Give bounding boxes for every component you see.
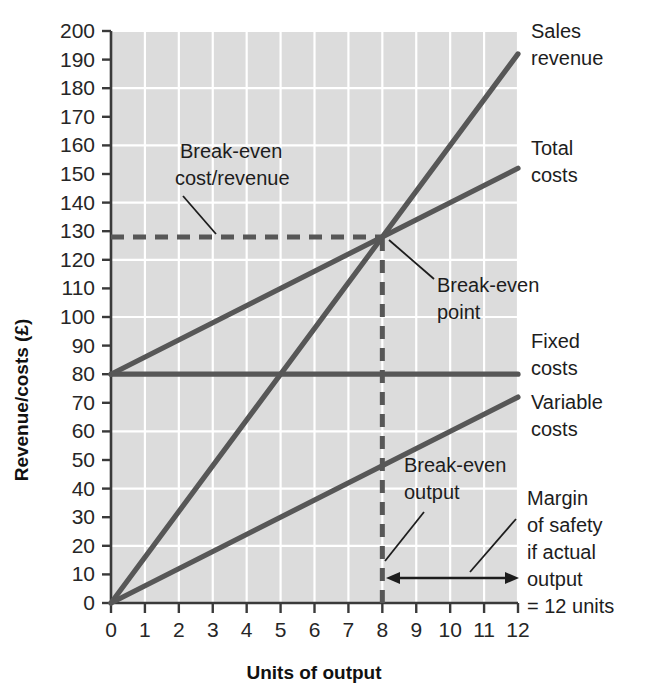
x-tick-label: 12 — [506, 618, 529, 641]
y-tick-label: 200 — [60, 19, 95, 42]
x-tick-label: 8 — [376, 618, 388, 641]
series-label-variable-costs: Variable costs — [531, 391, 603, 440]
x-tick-label: 10 — [438, 618, 461, 641]
svg-text:= 12 units: = 12 units — [527, 595, 614, 617]
y-tick-label: 160 — [60, 133, 95, 156]
svg-text:revenue: revenue — [531, 47, 603, 69]
svg-text:Margin: Margin — [527, 487, 588, 509]
x-axis-ticks — [111, 603, 518, 613]
x-tick-label: 4 — [241, 618, 253, 641]
x-axis-tick-labels: 0123456789101112 — [105, 618, 530, 641]
y-tick-label: 50 — [72, 448, 95, 471]
y-tick-label: 0 — [83, 591, 95, 614]
svg-text:Total: Total — [531, 137, 573, 159]
y-axis-ticks — [102, 31, 111, 603]
x-tick-label: 5 — [275, 618, 287, 641]
series-label-sales-revenue: Sales revenue — [531, 20, 603, 69]
x-axis-title: Units of output — [246, 662, 382, 683]
x-tick-label: 7 — [343, 618, 355, 641]
svg-text:costs: costs — [531, 418, 578, 440]
y-tick-label: 20 — [72, 534, 95, 557]
y-tick-label: 140 — [60, 191, 95, 214]
svg-text:cost/revenue: cost/revenue — [175, 167, 290, 189]
svg-text:Variable: Variable — [531, 391, 603, 413]
series-label-total-costs: Total costs — [531, 137, 578, 186]
svg-text:costs: costs — [531, 164, 578, 186]
chart-canvas: 0102030405060708090100110120130140150160… — [0, 0, 652, 692]
x-tick-label: 1 — [139, 618, 151, 641]
svg-text:Break-even: Break-even — [404, 454, 506, 476]
y-tick-label: 10 — [72, 562, 95, 585]
x-tick-label: 11 — [473, 618, 495, 641]
x-tick-label: 0 — [105, 618, 117, 641]
x-tick-label: 2 — [173, 618, 185, 641]
y-tick-label: 40 — [72, 477, 95, 500]
svg-text:if actual: if actual — [527, 541, 596, 563]
y-tick-label: 100 — [60, 305, 95, 328]
y-tick-label: 150 — [60, 162, 95, 185]
svg-text:Break-even: Break-even — [437, 274, 539, 296]
svg-text:Fixed: Fixed — [531, 330, 580, 352]
svg-text:of safety: of safety — [527, 514, 603, 536]
y-tick-label: 30 — [72, 505, 95, 528]
y-axis-tick-labels: 0102030405060708090100110120130140150160… — [60, 19, 95, 614]
svg-text:Sales: Sales — [531, 20, 581, 42]
y-tick-label: 170 — [60, 105, 95, 128]
y-tick-label: 190 — [60, 48, 95, 71]
y-tick-label: 130 — [60, 219, 95, 242]
y-tick-label: 60 — [72, 419, 95, 442]
break-even-chart: 0102030405060708090100110120130140150160… — [0, 0, 652, 692]
series-label-fixed-costs: Fixed costs — [531, 330, 580, 379]
svg-text:costs: costs — [531, 357, 578, 379]
y-axis-title: Revenue/costs (£) — [11, 319, 32, 482]
annotation-margin-of-safety: Margin of safety if actual output = 12 u… — [527, 487, 614, 617]
svg-text:Break-even: Break-even — [180, 140, 282, 162]
svg-text:point: point — [437, 301, 481, 323]
y-tick-label: 70 — [72, 391, 95, 414]
y-tick-label: 90 — [72, 334, 95, 357]
svg-text:output: output — [527, 568, 583, 590]
y-tick-label: 80 — [72, 362, 95, 385]
y-tick-label: 110 — [62, 276, 95, 299]
x-tick-label: 3 — [207, 618, 219, 641]
y-tick-label: 180 — [60, 76, 95, 99]
svg-text:output: output — [404, 481, 460, 503]
y-tick-label: 120 — [60, 248, 95, 271]
x-tick-label: 6 — [309, 618, 321, 641]
x-tick-label: 9 — [410, 618, 422, 641]
